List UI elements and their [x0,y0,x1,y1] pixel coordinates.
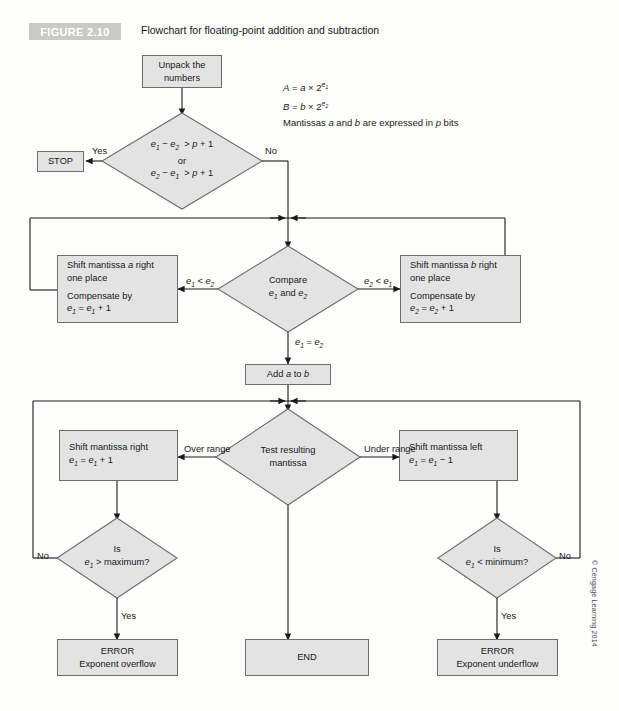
node-shift-a: Shift mantissa a right one place Compens… [57,255,178,323]
node-shift-a-line2: one place [67,272,107,285]
node-shift-right-line2: e1 = e1 + 1 [69,454,113,470]
edge-label-e2-lt-e1: e2 < e1 [364,276,392,290]
node-shift-b-line2: one place [410,272,450,285]
node-add-label: Add a to b [267,368,309,381]
edge-label-over-range: Over range [184,444,231,455]
node-shift-b: Shift mantissa b right one place Compens… [400,255,521,323]
node-add: Add a to b [245,364,331,385]
edge-label-yes-min: Yes [501,611,516,622]
node-error-overflow-line2: Exponent overflow [79,658,156,671]
node-stop-label: STOP [48,155,73,168]
node-error-overflow-line1: ERROR [101,645,135,658]
node-error-overflow: ERROR Exponent overflow [57,639,178,676]
node-unpack-line2: numbers [164,72,200,85]
node-unpack-line1: Unpack the [158,59,205,72]
node-shift-right-line1: Shift mantissa right [69,441,148,454]
node-shift-right: Shift mantissa right e1 = e1 + 1 [59,430,178,481]
edge-label-under-range: Under range [364,444,416,455]
node-shift-a-line1: Shift mantissa a right [67,259,154,272]
edge-label-no-continue: No [265,146,277,157]
node-end: END [245,639,369,676]
figure-page: FIGURE 2.10 Flowchart for floating-point… [0,0,619,711]
node-shift-left: Shift mantissa left e1 = e1 − 1 [399,430,518,481]
edge-label-yes-stop: Yes [92,146,107,157]
node-shift-b-line3: Compensate by [410,290,475,303]
node-shift-b-line4: e2 = e2 + 1 [410,302,454,318]
flowchart-connectors [0,0,619,711]
node-stop: STOP [37,151,84,172]
node-error-underflow-line1: ERROR [481,645,515,658]
edge-label-no-min: No [559,551,571,562]
copyright-notice: © Cengage Learning 2014 [591,560,598,647]
node-error-underflow: ERROR Exponent underflow [437,639,558,676]
node-unpack: Unpack the numbers [142,55,222,88]
node-shift-b-line1: Shift mantissa b right [410,259,497,272]
edge-label-no-max: No [37,551,49,562]
node-shift-left-line2: e1 = e1 − 1 [409,454,453,470]
node-end-label: END [297,651,317,664]
node-shift-a-line4: e1 = e1 + 1 [67,302,111,318]
node-error-underflow-line2: Exponent underflow [456,658,538,671]
edge-label-yes-max: Yes [121,611,136,622]
edge-label-e1-lt-e2: e1 < e2 [186,276,214,290]
node-shift-left-line1: Shift mantissa left [409,441,482,454]
edge-label-e1-eq-e2: e1 = e2 [295,337,323,351]
node-shift-a-line3: Compensate by [67,290,132,303]
